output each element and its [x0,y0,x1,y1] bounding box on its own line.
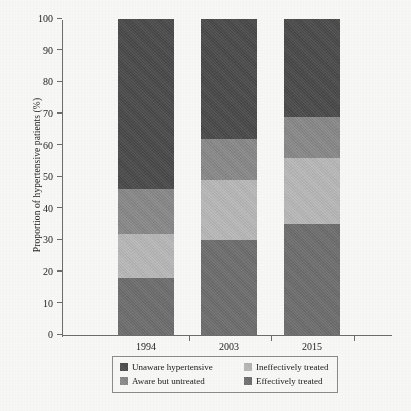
bar-2015 [284,19,340,335]
bar-1994 [118,19,174,335]
y-tick-label: 90 [43,44,53,55]
legend-row: Unaware hypertensive Ineffectively treat… [120,361,332,373]
y-axis-line [62,20,63,337]
bar-segment [201,19,257,139]
bar-segment [201,240,257,335]
swatch-texture [244,363,252,371]
segment-texture [284,224,340,335]
segment-texture [118,278,174,335]
bar-2003 [201,19,257,335]
legend-label: Aware but untreated [132,375,205,387]
bar-segment [118,234,174,278]
legend-swatch-icon [120,377,128,385]
y-tick-label: 40 [43,202,53,213]
legend-entry-unaware-hypertensive: Unaware hypertensive [120,361,244,373]
legend-swatch-icon [244,377,252,385]
segment-texture [201,19,257,139]
legend-label: Effectively treated [256,375,323,387]
legend-entry-aware-but-untreated: Aware but untreated [120,375,244,387]
chart-legend: Unaware hypertensive Ineffectively treat… [112,356,338,393]
bar-segment [284,19,340,117]
y-tick: 10 [57,302,62,303]
bar-segment [118,189,174,233]
legend-entry-ineffectively-treated: Ineffectively treated [244,361,329,373]
legend-label: Ineffectively treated [256,361,329,373]
y-tick: 40 [57,207,62,208]
segment-texture [201,139,257,180]
segment-texture [284,19,340,117]
legend-label: Unaware hypertensive [132,361,213,373]
segment-texture [201,180,257,240]
legend-swatch-icon [120,363,128,371]
y-tick: 70 [57,112,62,113]
y-tick-label: 100 [38,13,53,24]
y-tick: 80 [57,81,62,82]
segment-texture [118,19,174,190]
y-tick: 100 [57,18,62,19]
x-tick-label-1994: 1994 [101,341,191,352]
y-tick: 50 [57,176,62,177]
plot-area: 0102030405060708090100 199420032015 [62,20,392,336]
stacked-bar-chart-figure: Proportion of hypertensive patients (%) … [0,0,411,411]
bar-segment [284,117,340,158]
y-tick: 0 [57,334,62,335]
y-tick-label: 80 [43,76,53,87]
segment-texture [201,240,257,335]
bar-segment [118,278,174,335]
y-tick-label: 60 [43,139,53,150]
y-tick-label: 20 [43,265,53,276]
y-tick: 60 [57,144,62,145]
segment-texture [284,117,340,158]
y-axis-title: Proportion of hypertensive patients (%) [32,55,42,295]
bar-segment [118,19,174,190]
y-tick-label: 30 [43,234,53,245]
segment-texture [118,234,174,278]
y-tick: 90 [57,49,62,50]
y-tick-label: 70 [43,107,53,118]
bar-segment [284,224,340,335]
y-tick-label: 10 [43,297,53,308]
y-tick: 20 [57,270,62,271]
x-axis-line [62,335,392,336]
swatch-texture [120,377,128,385]
x-tick-label-2003: 2003 [184,341,274,352]
segment-texture [118,189,174,233]
legend-swatch-icon [244,363,252,371]
swatch-texture [120,363,128,371]
bar-segment [201,139,257,180]
y-tick-label: 0 [48,329,53,340]
x-tick-label-2015: 2015 [267,341,357,352]
legend-entry-effectively-treated: Effectively treated [244,375,323,387]
bar-segment [201,180,257,240]
swatch-texture [244,377,252,385]
segment-texture [284,158,340,224]
y-tick-label: 50 [43,171,53,182]
y-tick: 30 [57,239,62,240]
legend-row: Aware but untreated Effectively treated [120,375,332,387]
bar-segment [284,158,340,224]
